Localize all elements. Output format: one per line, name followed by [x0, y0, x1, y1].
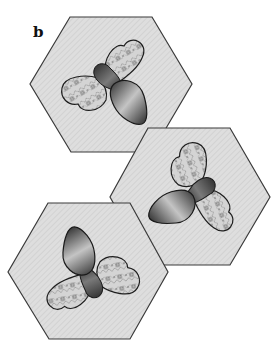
hexagon-figure — [0, 0, 280, 353]
